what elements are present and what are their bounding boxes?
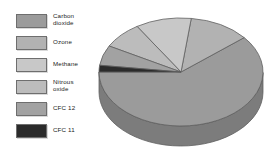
legend-item-cfc-11[interactable]: CFC 11	[0, 122, 104, 144]
swatch-nitrous-oxide	[16, 80, 47, 94]
legend-label-cfc-12: CFC 12	[53, 104, 75, 111]
legend-item-methane[interactable]: Methane	[0, 56, 104, 78]
pie-chart-area	[96, 0, 279, 148]
legend-label-ozone: Ozone	[53, 38, 72, 45]
legend-item-ozone[interactable]: Ozone	[0, 34, 104, 56]
swatch-ozone	[16, 36, 47, 50]
legend-label-cfc-11: CFC 11	[53, 126, 75, 133]
swatch-cfc-12	[16, 102, 47, 116]
swatch-carbon-dioxide	[16, 14, 47, 28]
legend-label-methane: Methane	[53, 60, 78, 67]
legend-label-nitrous-oxide: Nitrous oxide	[53, 78, 74, 93]
swatch-cfc-11	[16, 124, 47, 138]
pie-chart-figure: Carbon dioxide Ozone Methane Nitrous oxi…	[0, 0, 279, 148]
gas-legend: Carbon dioxide Ozone Methane Nitrous oxi…	[0, 0, 104, 148]
legend-item-nitrous-oxide[interactable]: Nitrous oxide	[0, 78, 104, 100]
legend-label-carbon-dioxide: Carbon dioxide	[53, 12, 74, 27]
swatch-methane	[16, 58, 47, 72]
legend-item-cfc-12[interactable]: CFC 12	[0, 100, 104, 122]
legend-item-carbon-dioxide[interactable]: Carbon dioxide	[0, 12, 104, 34]
pie-chart-svg	[96, 0, 279, 148]
